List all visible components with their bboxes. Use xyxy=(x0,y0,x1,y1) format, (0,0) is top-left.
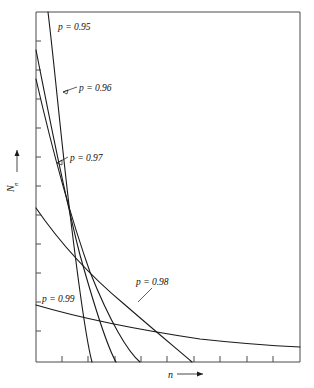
annotation-label-p-0-98: p = 0.98 xyxy=(135,277,169,287)
annotation-label-p-0-96: p = 0.96 xyxy=(78,83,112,93)
curve-p-0-98 xyxy=(36,208,192,362)
y-axis-arrow-head xyxy=(15,150,20,156)
curve-p-0-95 xyxy=(48,12,92,362)
leader-line-p-0-98 xyxy=(138,288,152,302)
leader-arrowhead-p-0-97 xyxy=(57,160,62,165)
annotation-p-0-95: p = 0.95 xyxy=(57,22,91,32)
figure-container: p = 0.95 p = 0.96 p = 0.97 p = 0.98 p = … xyxy=(0,0,314,388)
annotation-label-p-0-99: p = 0.99 xyxy=(41,294,75,304)
x-axis-label: n xyxy=(168,369,173,380)
curve-p-0-97 xyxy=(36,79,140,362)
x-axis-label-group: n xyxy=(168,369,203,380)
x-axis-arrow-head xyxy=(197,372,203,377)
plot-frame xyxy=(36,12,300,362)
annotation-label-p-0-95: p = 0.95 xyxy=(57,22,91,32)
x-axis-ticks xyxy=(62,356,273,362)
frame-border xyxy=(36,12,300,362)
annotation-p-0-96: p = 0.96 xyxy=(63,83,112,94)
annotation-label-p-0-97: p = 0.97 xyxy=(69,153,104,163)
y-axis-label-group: N n xyxy=(5,150,20,193)
y-axis-label-subscript: n xyxy=(12,182,20,186)
annotation-p-0-99: p = 0.99 xyxy=(41,294,75,304)
line-chart: p = 0.95 p = 0.96 p = 0.97 p = 0.98 p = … xyxy=(0,0,314,388)
leader-arrowhead-p-0-96 xyxy=(63,90,68,94)
annotation-p-0-98: p = 0.98 xyxy=(135,277,169,302)
curve-p-0-99 xyxy=(36,305,300,347)
curve-group xyxy=(36,12,300,362)
